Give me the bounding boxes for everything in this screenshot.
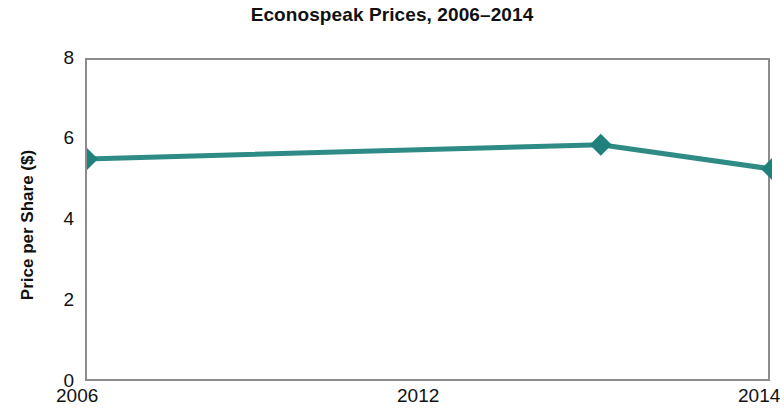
chart-figure: Econospeak Prices, 2006–2014 Price per S… [0,0,784,418]
y-tick-label-8: 8 [14,47,74,69]
x-tick-label-2006: 2006 [56,385,98,407]
x-tick-label-2012: 2012 [397,385,439,407]
series-line-econospeak [87,145,772,169]
series-canvas [87,60,772,383]
y-tick-label-2: 2 [14,289,74,311]
chart-title: Econospeak Prices, 2006–2014 [0,4,784,26]
data-point-marker-2014 [761,158,772,180]
plot-area [85,58,770,381]
data-point-marker-2006 [87,148,98,170]
x-tick-label-2014: 2014 [738,385,780,407]
data-point-marker-2012 [590,134,612,156]
y-tick-label-4: 4 [14,208,74,230]
y-tick-label-6: 6 [14,127,74,149]
